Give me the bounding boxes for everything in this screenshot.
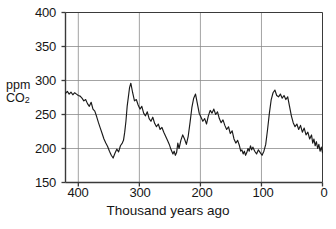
y-tick-label-250: 250 bbox=[22, 107, 56, 122]
tick-marks bbox=[62, 13, 323, 187]
x-axis-label: Thousand years ago bbox=[0, 203, 336, 218]
x-tick-label-400: 400 bbox=[63, 185, 93, 200]
x-tick-label-200: 200 bbox=[187, 185, 217, 200]
x-tick-label-0: 0 bbox=[309, 185, 336, 200]
y-tick-label-400: 400 bbox=[22, 5, 56, 20]
x-tick-label-300: 300 bbox=[125, 185, 155, 200]
co2-data-line bbox=[66, 83, 323, 158]
y-tick-label-200: 200 bbox=[22, 141, 56, 156]
y-axis-label-subscript: 2 bbox=[25, 95, 30, 105]
y-axis-label-line2: CO2 bbox=[6, 92, 44, 107]
y-axis-label: ppm CO2 bbox=[6, 79, 44, 107]
x-tick-label-100: 100 bbox=[248, 185, 278, 200]
co2-chart-figure: 400 350 300 250 200 150 400 300 200 100 … bbox=[0, 0, 336, 229]
y-tick-label-350: 350 bbox=[22, 39, 56, 54]
y-tick-label-150: 150 bbox=[22, 175, 56, 190]
y-axis-label-co: CO bbox=[6, 91, 25, 105]
